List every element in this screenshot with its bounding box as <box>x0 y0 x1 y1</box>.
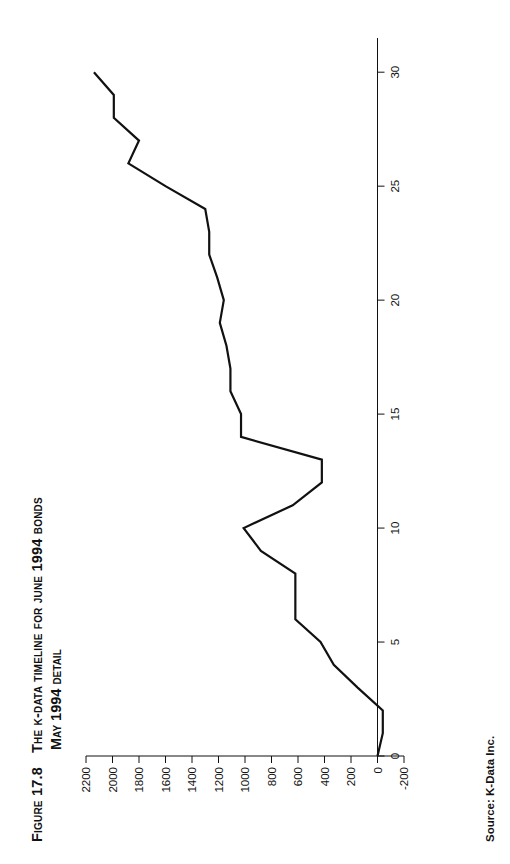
value-axis-tick-label: 1000 <box>239 767 251 793</box>
value-axis-tick-label: 1400 <box>186 767 198 793</box>
day-axis-tick-label: 5 <box>389 639 401 645</box>
value-axis-tick-label: 2200 <box>80 767 92 793</box>
data-series-group <box>94 72 383 756</box>
rotated-figure-container: FIGURE 17.8THE K-DATA TIMELINE FOR JUNE … <box>0 0 510 864</box>
day-axis-tick-label: 20 <box>389 294 401 307</box>
day-axis-tick-label: 15 <box>389 408 401 421</box>
value-axis-tick-label: 1800 <box>133 767 145 793</box>
source-note: Source: K-Data Inc. <box>484 736 496 842</box>
chart-plot-area: -200020040060080010001200140016001800200… <box>0 0 510 864</box>
value-axis-tick-label: 800 <box>266 767 278 786</box>
day-axis: 051015202530 <box>378 38 401 759</box>
value-axis-tick-label: 0 <box>372 767 384 773</box>
day-axis-tick-label: 10 <box>389 522 401 535</box>
day-axis-tick-label: 30 <box>389 66 401 79</box>
line-chart-svg: -200020040060080010001200140016001800200… <box>0 0 510 864</box>
data-line <box>94 72 383 756</box>
value-axis-tick-label: 200 <box>345 767 357 786</box>
value-axis-tick-label: 400 <box>319 767 331 786</box>
value-axis-tick-label: 1600 <box>160 767 172 793</box>
day-axis-tick-label: 0 <box>389 753 401 759</box>
value-axis: -200020040060080010001200140016001800200… <box>80 756 410 793</box>
value-axis-tick-label: -200 <box>398 767 410 790</box>
source-value: K-Data Inc. <box>484 736 496 796</box>
value-axis-tick-label: 600 <box>292 767 304 786</box>
figure: FIGURE 17.8THE K-DATA TIMELINE FOR JUNE … <box>0 0 510 864</box>
day-axis-tick-label: 25 <box>389 180 401 193</box>
value-axis-tick-label: 1200 <box>213 767 225 793</box>
value-axis-tick-label: 2000 <box>107 767 119 793</box>
source-label: Source: <box>484 799 496 842</box>
